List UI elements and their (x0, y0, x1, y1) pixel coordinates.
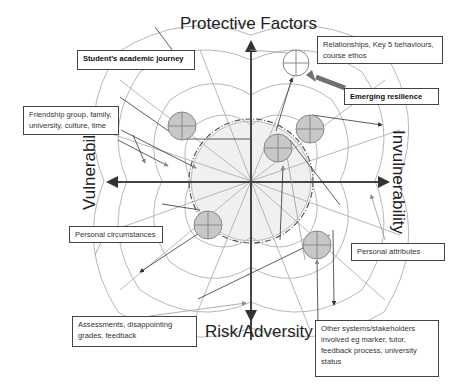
axis-label-protective-factors: Protective Factors (180, 14, 317, 34)
box-other-systems: Other systems/stakeholders involved eg m… (315, 320, 439, 377)
box-emerging-resilience: Emerging resilience (344, 88, 439, 105)
box-assessments: Assessments, disappointing grades, feedb… (72, 316, 197, 347)
emerging-resilience-arrow (316, 77, 345, 88)
box-personal-attributes: Personal attributes (351, 243, 445, 261)
axis-label-risk-adversity: Risk/Adversity (205, 322, 313, 342)
box-personal-circumstances: Personal circumstances (69, 226, 163, 243)
axis-label-invulnerability: Invulnerability (388, 130, 408, 234)
node-upper-right-inner (264, 134, 292, 162)
node-lower-right (303, 231, 331, 259)
box-relationships: Relationships, Key 5 behaviours, course … (317, 36, 443, 64)
node-emerging (283, 50, 309, 76)
box-friendship: Friendship group, family, university, cu… (23, 106, 119, 135)
node-lower-left (194, 211, 222, 239)
node-upper-right-outer (296, 115, 324, 143)
node-academic (168, 112, 196, 140)
box-academic-journey: Student’s academic journey (77, 50, 195, 70)
